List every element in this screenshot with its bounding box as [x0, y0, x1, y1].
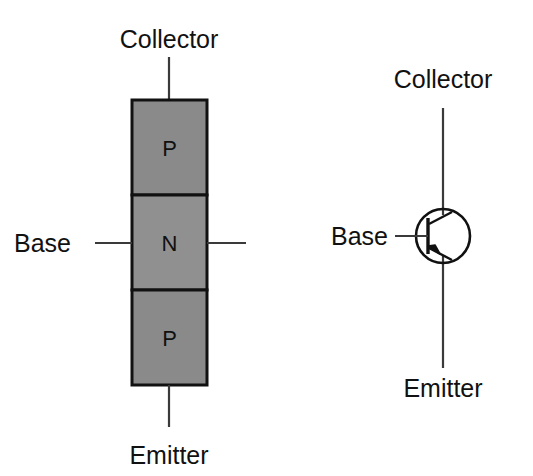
structure-emitter-region-label: P	[162, 326, 177, 351]
symbol-base-label: Base	[331, 222, 388, 250]
structure-collector-label: Collector	[120, 25, 219, 53]
structure-collector-region-label: P	[162, 136, 177, 161]
structure-base-label: Base	[14, 229, 71, 257]
symbol-collector-label: Collector	[394, 65, 493, 93]
pnp-layer-structure-group: Collector P N P Base Emitter	[14, 25, 246, 469]
transistor-figure: Collector P N P Base Emitter Collector	[0, 0, 533, 476]
structure-emitter-label: Emitter	[129, 441, 208, 469]
pnp-symbol-group: Collector Base Emitter	[331, 65, 492, 402]
structure-base-region-label: N	[162, 231, 178, 256]
symbol-emitter-label: Emitter	[403, 374, 482, 402]
symbol-collector-connector	[429, 212, 452, 224]
